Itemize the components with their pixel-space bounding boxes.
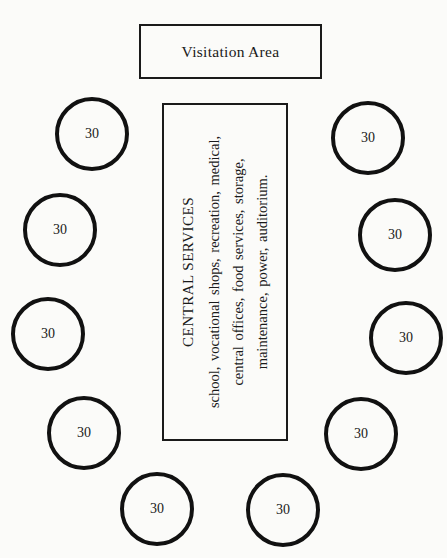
central-services-text: CENTRAL SERVICES school, vocational shop… [176,107,274,437]
housing-unit-circle: 30 [324,397,398,471]
visitation-area-box: Visitation Area [139,24,322,79]
housing-unit-circle: 30 [11,297,85,371]
unit-capacity: 30 [276,502,290,518]
housing-unit-circle: 30 [369,301,443,375]
unit-capacity: 30 [41,326,55,342]
housing-unit-circle: 30 [358,198,432,272]
unit-capacity: 30 [361,130,375,146]
central-services-line-3: maintenance, power, auditorium. [250,107,274,437]
central-services-box: CENTRAL SERVICES school, vocational shop… [162,103,288,441]
central-services-title: CENTRAL SERVICES [176,107,200,437]
central-services-line-2: central offices, food services, storage, [226,107,250,437]
visitation-area-label: Visitation Area [182,43,280,61]
unit-capacity: 30 [388,227,402,243]
housing-unit-circle: 30 [55,97,129,171]
unit-capacity: 30 [354,426,368,442]
unit-capacity: 30 [53,222,67,238]
housing-unit-circle: 30 [23,193,97,267]
housing-unit-circle: 30 [246,473,320,547]
housing-unit-circle: 30 [120,472,194,546]
housing-unit-circle: 30 [47,396,121,470]
unit-capacity: 30 [150,501,164,517]
housing-unit-circle: 30 [331,101,405,175]
unit-capacity: 30 [77,425,91,441]
central-services-line-1: school, vocational shops, recreation, me… [202,107,226,437]
unit-capacity: 30 [85,126,99,142]
unit-capacity: 30 [399,330,413,346]
